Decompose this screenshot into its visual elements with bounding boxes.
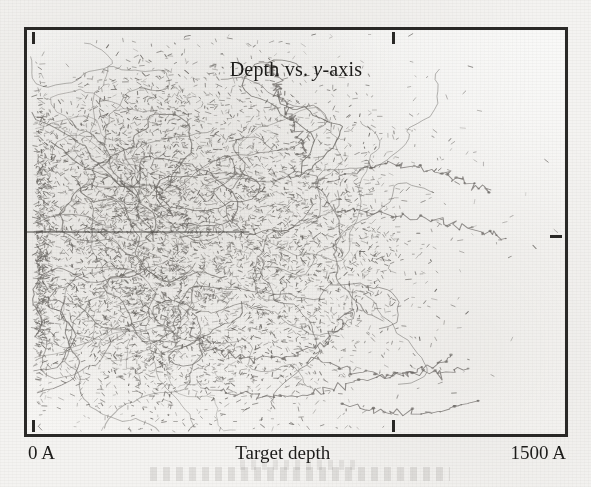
tick-top-left <box>32 32 35 44</box>
cascade-track-right-branch-mid <box>338 208 506 240</box>
x-axis-min-label: 0 A <box>28 441 55 464</box>
tick-bottom-center <box>392 420 395 432</box>
x-axis-title: Target depth <box>235 441 330 464</box>
x-axis-label-row: 0 A Target depth 1500 A <box>24 441 568 471</box>
cascade-plot <box>27 30 565 434</box>
x-axis-max-label: 1500 A <box>511 441 566 464</box>
tick-top-center <box>392 32 395 44</box>
cascade-track-lower-right-tail <box>307 355 451 379</box>
cascade-track-bottom-long-tail <box>205 367 468 398</box>
plot-frame: Depth vs. y-axis <box>24 27 568 437</box>
plot-title-suffix: -axis <box>322 58 362 80</box>
cascade-track-bottom-low-arc <box>342 401 479 416</box>
plot-title: Depth vs. y-axis <box>27 58 565 81</box>
tick-right-middle <box>550 235 562 238</box>
tick-bottom-left <box>32 420 35 432</box>
figure-container: Depth vs. y-axis 0 A Target depth 1500 A <box>0 0 591 487</box>
plot-title-prefix: Depth vs. <box>230 58 314 80</box>
